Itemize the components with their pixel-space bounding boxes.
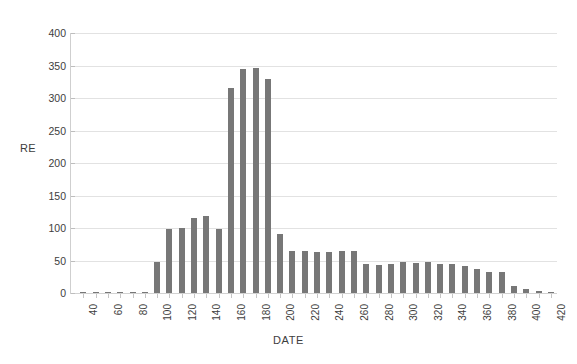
x-tick-mark <box>477 294 478 298</box>
x-tick-mark <box>206 294 207 298</box>
x-tick-label: 420 <box>556 304 567 334</box>
x-tick-label: 120 <box>187 304 198 334</box>
x-tick-mark <box>526 294 527 298</box>
x-tick-mark <box>243 294 244 298</box>
x-tick-label: 100 <box>162 304 173 334</box>
x-tick-mark <box>391 294 392 298</box>
x-tick-mark <box>489 294 490 298</box>
x-tick-label: 220 <box>310 304 321 334</box>
x-axis-title: DATE <box>0 334 577 346</box>
bar <box>130 292 136 294</box>
x-tick-mark <box>305 294 306 298</box>
x-tick-label: 340 <box>457 304 468 334</box>
bar <box>486 272 492 293</box>
x-tick-mark <box>440 294 441 298</box>
x-tick-mark <box>539 294 540 298</box>
y-tick-mark <box>71 228 75 229</box>
y-tick-mark <box>71 196 75 197</box>
plot-area <box>71 33 557 293</box>
x-tick-label: 160 <box>236 304 247 334</box>
x-tick-mark <box>551 294 552 298</box>
y-tick-label: 0 <box>32 287 66 299</box>
gridline <box>71 66 557 67</box>
x-tick-mark <box>145 294 146 298</box>
bar <box>548 292 554 294</box>
y-tick-mark <box>71 33 75 34</box>
x-tick-mark <box>354 294 355 298</box>
bar <box>425 262 431 293</box>
bar <box>376 265 382 293</box>
bar <box>80 292 86 294</box>
bar <box>191 218 197 293</box>
bar <box>326 252 332 293</box>
x-tick-mark <box>219 294 220 298</box>
x-tick-label: 300 <box>408 304 419 334</box>
bar <box>289 251 295 293</box>
x-tick-mark <box>366 294 367 298</box>
gridline <box>71 163 557 164</box>
y-tick-label: 250 <box>32 125 66 137</box>
gridline <box>71 33 557 34</box>
bar <box>105 292 111 294</box>
bar <box>117 292 123 294</box>
bar <box>536 291 542 293</box>
x-tick-mark <box>108 294 109 298</box>
bar-chart: RE 050100150200250300350400 406080100120… <box>0 0 577 364</box>
x-tick-mark <box>96 294 97 298</box>
x-tick-mark <box>342 294 343 298</box>
x-tick-mark <box>268 294 269 298</box>
x-tick-mark <box>292 294 293 298</box>
x-tick-mark <box>194 294 195 298</box>
x-tick-label: 80 <box>138 304 149 334</box>
x-tick-label: 260 <box>359 304 370 334</box>
x-tick-label: 180 <box>261 304 272 334</box>
bar <box>339 251 345 293</box>
gridline <box>71 228 557 229</box>
bar <box>449 264 455 293</box>
y-tick-label: 50 <box>32 255 66 267</box>
x-tick-mark <box>133 294 134 298</box>
x-tick-mark <box>428 294 429 298</box>
x-tick-label: 380 <box>507 304 518 334</box>
y-tick-label: 350 <box>32 60 66 72</box>
bar <box>351 251 357 293</box>
x-tick-label: 60 <box>113 304 124 334</box>
bar <box>462 266 468 293</box>
bar <box>499 272 505 293</box>
y-tick-label: 150 <box>32 190 66 202</box>
y-tick-mark <box>71 66 75 67</box>
bar <box>388 264 394 293</box>
x-tick-mark <box>182 294 183 298</box>
bar <box>302 251 308 293</box>
y-tick-mark <box>71 98 75 99</box>
y-tick-label: 400 <box>32 27 66 39</box>
y-tick-label: 200 <box>32 157 66 169</box>
x-tick-label: 140 <box>211 304 222 334</box>
y-tick-label: 300 <box>32 92 66 104</box>
bar <box>474 269 480 293</box>
bar <box>363 264 369 293</box>
x-tick-label: 240 <box>334 304 345 334</box>
x-tick-mark <box>317 294 318 298</box>
y-axis-tick-labels: 050100150200250300350400 <box>28 33 66 293</box>
x-tick-mark <box>452 294 453 298</box>
x-tick-mark <box>502 294 503 298</box>
y-tick-mark <box>71 163 75 164</box>
x-tick-label: 360 <box>482 304 493 334</box>
x-tick-mark <box>83 294 84 298</box>
x-tick-mark <box>329 294 330 298</box>
bar <box>216 229 222 293</box>
bar <box>203 216 209 293</box>
x-tick-mark <box>256 294 257 298</box>
x-tick-mark <box>280 294 281 298</box>
bar <box>314 252 320 293</box>
x-tick-label: 320 <box>433 304 444 334</box>
bar <box>240 69 246 293</box>
x-tick-label: 40 <box>88 304 99 334</box>
x-tick-mark <box>157 294 158 298</box>
bar <box>523 289 529 293</box>
y-tick-mark <box>71 131 75 132</box>
bar <box>400 262 406 293</box>
bar <box>277 234 283 293</box>
x-tick-label: 280 <box>384 304 395 334</box>
